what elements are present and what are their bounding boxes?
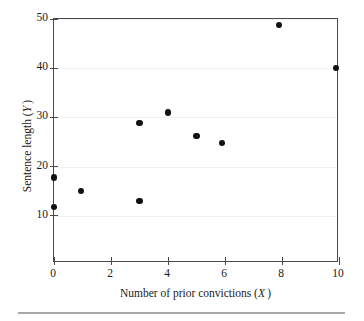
data-point bbox=[219, 140, 225, 146]
y-tick-50 bbox=[50, 19, 58, 20]
x-tick-4 bbox=[168, 257, 169, 265]
x-axis-title: Number of prior convictions (X ) bbox=[53, 287, 338, 299]
x-tick-label-6: 6 bbox=[204, 268, 244, 280]
data-point bbox=[78, 188, 84, 194]
y-tick-10 bbox=[50, 215, 58, 216]
data-point bbox=[193, 133, 199, 139]
x-tick-label-2: 2 bbox=[90, 268, 130, 280]
gridline-y-50 bbox=[54, 19, 337, 20]
x-tick-label-10: 10 bbox=[318, 268, 358, 280]
x-tick-6 bbox=[225, 257, 226, 265]
data-point bbox=[51, 174, 57, 180]
y-axis-title: Sentence length (Y ) bbox=[21, 66, 33, 226]
scatter-plot-figure: 1020304050 0246810 Number of prior convi… bbox=[0, 0, 364, 321]
gridline-y-40 bbox=[54, 68, 337, 69]
plot-area bbox=[53, 18, 338, 262]
x-tick-10 bbox=[339, 257, 340, 265]
y-axis-title-paren-close: ) bbox=[21, 100, 33, 106]
data-point bbox=[136, 120, 142, 126]
data-point bbox=[51, 204, 57, 210]
y-tick-30 bbox=[50, 117, 58, 118]
data-point bbox=[333, 65, 339, 71]
y-axis-title-text: Sentence length bbox=[21, 119, 33, 192]
y-tick-label-50: 50 bbox=[24, 12, 48, 24]
x-tick-8 bbox=[282, 257, 283, 265]
gridline-y-10 bbox=[54, 216, 337, 217]
x-axis-title-paren-close: ) bbox=[265, 287, 271, 299]
data-point bbox=[276, 22, 282, 28]
x-axis-variable-symbol: X bbox=[258, 287, 265, 299]
data-point bbox=[136, 198, 142, 204]
x-axis-title-text: Number of prior convictions bbox=[120, 287, 251, 299]
x-tick-label-8: 8 bbox=[261, 268, 301, 280]
x-tick-0 bbox=[54, 257, 55, 265]
y-tick-20 bbox=[50, 166, 58, 167]
y-tick-40 bbox=[50, 68, 58, 69]
x-tick-label-0: 0 bbox=[33, 268, 73, 280]
footer-divider-rule bbox=[18, 312, 345, 314]
y-axis-title-paren-open: ( bbox=[21, 112, 33, 116]
y-axis-variable-symbol: Y bbox=[21, 106, 33, 112]
data-point bbox=[165, 109, 171, 115]
x-tick-2 bbox=[111, 257, 112, 265]
gridline-y-30 bbox=[54, 117, 337, 118]
x-tick-label-4: 4 bbox=[147, 268, 187, 280]
gridline-y-20 bbox=[54, 167, 337, 168]
